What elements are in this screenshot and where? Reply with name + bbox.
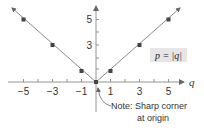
y-tick-label: 5 <box>86 14 92 25</box>
data-point <box>94 80 98 84</box>
data-point <box>51 43 55 47</box>
x-axis-label: q <box>189 76 195 88</box>
data-point <box>167 18 171 22</box>
y-tick-label: 3 <box>86 40 92 51</box>
data-point <box>109 69 113 73</box>
x-tick-label: −1 <box>76 86 88 97</box>
equation-legend: p = |q| <box>150 48 187 62</box>
absolute-value-chart: −5 −3 −1 1 3 5 q 3 5 p = <box>0 0 204 130</box>
note-text-line1: Note: Sharp corner <box>111 101 187 111</box>
y-axis: 3 5 <box>86 6 99 112</box>
x-tick-label: 5 <box>166 86 172 97</box>
data-point <box>80 69 84 73</box>
x-tick-label: −3 <box>47 86 59 97</box>
x-tick-label: 3 <box>137 86 143 97</box>
data-point <box>138 43 142 47</box>
note-text-line2: at origin <box>137 113 169 123</box>
x-tick-label: 1 <box>108 86 114 97</box>
x-axis: −5 −3 −1 1 3 5 q <box>8 76 195 97</box>
equation-text: p = |q| <box>154 50 182 61</box>
x-tick-label: −5 <box>18 86 30 97</box>
data-point <box>22 18 26 22</box>
